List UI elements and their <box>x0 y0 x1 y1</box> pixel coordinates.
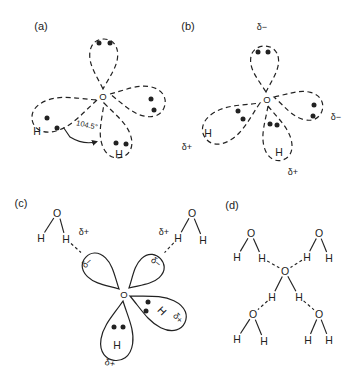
oxygen-atom: O <box>188 207 196 219</box>
oxygen-atom: O <box>315 227 323 239</box>
panel-a: (a) O H H 104.5° <box>27 20 167 162</box>
hydrogen-atom: H <box>303 251 311 263</box>
hydrogen-atom: H <box>260 335 268 347</box>
hydrogen-atom: H <box>325 334 333 346</box>
electron-pair-dot <box>268 122 273 127</box>
oxygen-atom: O <box>281 265 289 277</box>
oxygen-atom: O <box>315 308 323 320</box>
hydrogen-atom: H <box>37 232 45 244</box>
hydrogen-atom: H <box>113 339 121 351</box>
water-molecule-top-left: O H H δ+ <box>37 207 89 253</box>
oh-bond <box>311 320 317 335</box>
hydrogen-atom: H <box>258 252 266 264</box>
delta-plus-label: δ+ <box>182 142 192 152</box>
electron-pair-dot <box>55 126 60 131</box>
hydrogen-atom: H <box>62 233 70 245</box>
oh-bond <box>240 238 248 251</box>
oxygen-atom: O <box>263 94 270 105</box>
panel-c-label: (c) <box>15 197 28 209</box>
water-molecule-bottom-right: O H H <box>304 308 333 346</box>
hydrogen-atom: H <box>33 125 41 137</box>
oxygen-atom: O <box>249 308 257 320</box>
oh-bond <box>60 219 64 233</box>
oxygen-atom: O <box>247 227 255 239</box>
hydrogen-atom: H <box>204 127 212 139</box>
water-orbital-figure: (a) O H H 104.5° (b) O H H δ− <box>0 0 355 387</box>
electron-pair-dot <box>144 309 149 314</box>
oh-bond <box>45 218 54 233</box>
bonding-lobe-bottom <box>98 299 139 363</box>
water-molecule-top-right: O H H <box>303 227 333 264</box>
panel-a-label: (a) <box>34 20 47 32</box>
electron-pair-dot <box>124 142 129 147</box>
hydrogen-atom: H <box>233 333 241 345</box>
oh-bond <box>181 218 189 232</box>
delta-plus-label: δ+ <box>104 357 116 369</box>
electron-pair-dot <box>241 117 246 122</box>
oh-bond <box>253 239 259 253</box>
hydrogen-atom: H <box>155 304 169 318</box>
electron-pair-dot <box>146 300 151 305</box>
electron-pair-dot <box>97 41 102 46</box>
electron-pair-dot <box>114 141 119 146</box>
oh-bond <box>288 276 296 291</box>
electron-pair-dot <box>149 97 154 102</box>
hydrogen-bond <box>258 301 268 310</box>
electron-pair-dot <box>266 50 271 55</box>
delta-plus-label: δ+ <box>171 311 185 325</box>
water-molecule-center: O H H <box>268 265 303 303</box>
oh-bond <box>241 319 250 333</box>
hydrogen-atom: H <box>268 291 276 303</box>
oh-bond <box>321 320 327 334</box>
panel-d-label: (d) <box>225 199 238 211</box>
electron-pair-dot <box>121 325 126 330</box>
diagram-svg: (a) O H H 104.5° (b) O H H δ− <box>0 0 355 387</box>
hydrogen-atom: H <box>304 334 312 346</box>
delta-minus-label: δ− <box>331 112 341 122</box>
electron-pair-dot <box>236 109 241 114</box>
delta-plus-label: δ+ <box>288 167 298 177</box>
hydrogen-atom: H <box>115 148 123 160</box>
electron-pair-dot <box>256 50 261 55</box>
electron-pair-dot <box>152 108 157 113</box>
oh-bond <box>310 238 317 251</box>
hydrogen-atom: H <box>233 251 241 263</box>
lone-pair-lobe-right <box>107 79 168 119</box>
bonding-lobe-left <box>196 89 268 150</box>
hydrogen-bond <box>165 243 174 253</box>
hydrogen-bond <box>304 301 314 310</box>
bond-angle-label: 104.5° <box>75 118 98 131</box>
electron-pair-dot <box>311 114 316 119</box>
hydrogen-atom: H <box>174 232 182 244</box>
electron-pair-dot <box>112 325 117 330</box>
lone-pair-lobe-right <box>270 83 326 123</box>
electron-pair-dot <box>108 41 113 46</box>
oxygen-atom: O <box>120 289 127 300</box>
oh-bond <box>275 276 282 291</box>
hydrogen-bond <box>71 244 81 253</box>
hydrogen-atom: H <box>275 146 283 158</box>
electron-pair-dot <box>45 116 50 121</box>
oh-bond <box>194 219 200 234</box>
oxygen-atom: O <box>99 91 106 102</box>
lone-pair-lobe-top <box>250 45 280 92</box>
delta-minus-label: δ− <box>149 255 163 269</box>
water-molecule-top-right: O H H δ+ <box>159 207 207 253</box>
delta-minus-label: δ− <box>257 22 267 32</box>
oh-bond <box>321 239 326 252</box>
electron-pair-dot <box>275 123 280 128</box>
lone-pair-lobe-top <box>89 39 118 90</box>
hydrogen-bond <box>267 261 279 268</box>
water-molecule-bottom-left: O H H <box>233 308 268 347</box>
panel-d: (d) O H H O H H O H H O <box>225 199 333 347</box>
panel-b-label: (b) <box>181 20 194 32</box>
hydrogen-atom: H <box>199 234 207 246</box>
delta-plus-label: δ+ <box>159 227 169 237</box>
hydrogen-atom: H <box>295 291 303 303</box>
electron-pair-dot <box>312 103 317 108</box>
hydrogen-bond <box>291 260 303 267</box>
delta-plus-label: δ+ <box>79 227 89 237</box>
oxygen-atom: O <box>53 207 61 219</box>
hydrogen-atom: H <box>325 252 333 264</box>
water-molecule-top-left: O H H <box>233 227 266 264</box>
